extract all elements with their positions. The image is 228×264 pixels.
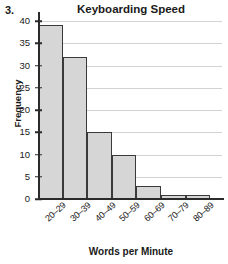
bar bbox=[87, 132, 112, 199]
x-axis-tick-label: 30–39 bbox=[68, 200, 93, 224]
y-axis-tick-label: 35 bbox=[19, 39, 30, 49]
x-axis-tick-label: 80–89 bbox=[191, 200, 216, 224]
y-axis-tick-label: 30 bbox=[19, 61, 30, 71]
y-axis-tick-label: 20 bbox=[19, 105, 30, 115]
bar bbox=[112, 155, 137, 200]
x-axis-tick-label: 60–69 bbox=[142, 200, 167, 224]
y-axis-tick-labels: 0510152025303540 bbox=[0, 21, 38, 199]
bar bbox=[63, 57, 88, 199]
x-axis-title: Words per Minute bbox=[38, 246, 224, 257]
y-axis-tick-label: 5 bbox=[25, 172, 30, 182]
x-axis-tick-label: 70–79 bbox=[167, 200, 192, 224]
y-axis-tick-label: 0 bbox=[25, 194, 30, 204]
y-axis-tick-label: 25 bbox=[19, 83, 30, 93]
item-number-label: 3. bbox=[5, 4, 14, 16]
chart-title: Keyboarding Speed bbox=[38, 3, 224, 15]
gridline bbox=[38, 43, 222, 44]
x-axis-tick-label: 20–29 bbox=[44, 200, 69, 224]
y-axis-tick-label: 15 bbox=[19, 128, 30, 138]
y-axis-tick-label: 10 bbox=[19, 150, 30, 160]
x-axis-tick-label: 50–59 bbox=[117, 200, 142, 224]
x-axis-tick-label: 40–49 bbox=[93, 200, 118, 224]
y-axis-line bbox=[38, 12, 40, 200]
bar bbox=[136, 186, 161, 199]
x-axis-tick-labels: 20–2930–3940–4950–5960–6970–7980–89 bbox=[38, 200, 228, 246]
chart-figure: 3. Keyboarding Speed Frequency 051015202… bbox=[0, 0, 228, 264]
gridline bbox=[38, 21, 222, 22]
plot-area bbox=[38, 21, 222, 199]
y-axis-tick-label: 40 bbox=[19, 16, 30, 26]
